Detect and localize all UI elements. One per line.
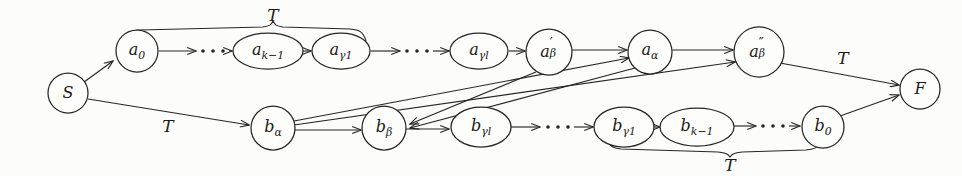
- node-bgammal: [451, 107, 511, 147]
- node-f: [900, 69, 940, 109]
- node-canvas: [0, 0, 962, 176]
- node-agamma1: [312, 33, 370, 69]
- node-a0: [116, 30, 158, 72]
- node-b0: [802, 106, 844, 148]
- node-ak-1: [233, 33, 303, 69]
- node-balpha: [251, 106, 295, 150]
- node-aalpha: [628, 30, 672, 74]
- node-agammal: [450, 33, 508, 69]
- node-s: [48, 73, 88, 113]
- node-bbeta: [362, 106, 406, 150]
- node-bk-1: [660, 108, 734, 146]
- node-aprimebeta: [526, 29, 572, 75]
- automaton-diagram: S a0 ak−1 aγ1 aγl a′β aα a″β bα bβ bγl b…: [0, 0, 962, 176]
- node-bgamma1: [594, 107, 654, 147]
- node-adblprimebeta: [734, 27, 784, 77]
